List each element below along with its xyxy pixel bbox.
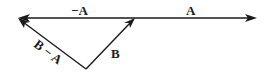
label-b: B bbox=[111, 46, 120, 61]
arrowhead-b-icon bbox=[124, 18, 135, 28]
vector-diagram: −A A B B − A bbox=[0, 0, 267, 73]
label-a: A bbox=[186, 3, 196, 18]
vector-a bbox=[135, 14, 257, 22]
label-neg-a: −A bbox=[71, 3, 88, 18]
vector-b bbox=[86, 18, 135, 69]
